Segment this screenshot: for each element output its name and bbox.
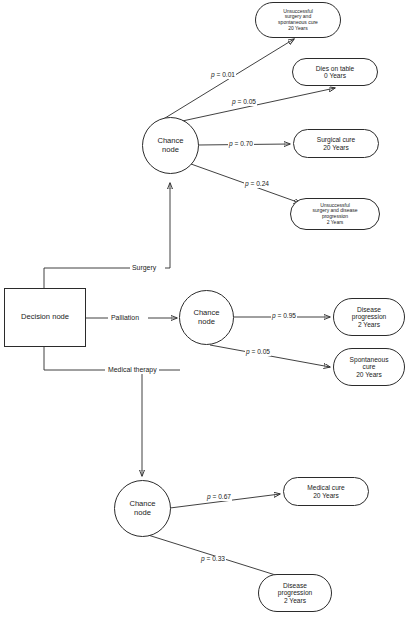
outcome-text: Surgical cure 20 Years [317, 136, 355, 151]
edge-surgery-unsuccessful-spontaneous [152, 39, 294, 126]
outcome-text: Unsuccessful surgery and disease progres… [312, 203, 357, 225]
chance-node-medical-label: Chance node [129, 500, 155, 517]
prob-label-palliation-spontaneous: p = 0.05 [245, 349, 271, 356]
outcome-unsuccessful-surgery-disease-progression[interactable]: Unsuccessful surgery and disease progres… [290, 198, 380, 230]
edge-medical-to-chance [142, 370, 180, 476]
outcome-medical-cure[interactable]: Medical cure 20 Years [283, 477, 369, 506]
chance-node-surgery-label: Chance node [157, 137, 183, 154]
decision-node-label: Decision node [21, 313, 69, 322]
chance-node-palliation-label: Chance node [193, 309, 219, 326]
outcome-text: Medical cure 20 Years [307, 484, 344, 499]
chance-node-surgery[interactable]: Chance node [142, 117, 199, 174]
edge-decision-to-medical [44, 347, 105, 370]
outcome-palliation-spontaneous-cure[interactable]: Spontaneous cure 20 Years [333, 348, 405, 386]
outcome-text: Spontaneous cure 20 Years [350, 356, 389, 378]
prob-label-medical-progression: p = 0.33 [200, 556, 226, 563]
outcome-text: Disease progression 2 Years [352, 306, 386, 328]
edge-surgery-to-chance [165, 183, 170, 268]
outcome-text: Dies on table 0 Years [316, 65, 355, 80]
branch-label-palliation: Palliation [109, 315, 141, 322]
outcome-text: Unsuccessful surgery and spontaneous cur… [278, 9, 318, 31]
prob-label-palliation-progression: p = 0.95 [271, 313, 297, 320]
prob-label-medical-cure: p = 0.67 [206, 494, 232, 501]
outcome-palliation-disease-progression[interactable]: Disease progression 2 Years [333, 298, 405, 336]
prob-label-surgical-cure: p = 0.70 [228, 141, 254, 148]
edge-decision-to-surgery [44, 268, 130, 288]
outcome-text: Disease progression 2 Years [278, 582, 312, 604]
prob-label-unsuccessful-progression: p = 0.24 [244, 181, 270, 188]
outcome-dies-on-table[interactable]: Dies on table 0 Years [292, 58, 378, 86]
decision-node[interactable]: Decision node [4, 288, 86, 347]
chance-node-medical[interactable]: Chance node [114, 480, 171, 537]
chance-node-palliation[interactable]: Chance node [179, 290, 234, 345]
prob-label-unsuccessful-spontaneous: p = 0.01 [210, 72, 236, 79]
outcome-unsuccessful-surgery-spontaneous-cure[interactable]: Unsuccessful surgery and spontaneous cur… [255, 2, 341, 38]
branch-label-surgery: Surgery [130, 265, 158, 272]
branch-label-medical-therapy: Medical therapy [106, 367, 159, 374]
prob-label-dies-on-table: p = 0.05 [231, 99, 257, 106]
outcome-surgical-cure[interactable]: Surgical cure 20 Years [293, 129, 379, 158]
decision-tree-diagram: Decision node Chance node Chance node Ch… [0, 0, 410, 623]
outcome-medical-disease-progression[interactable]: Disease progression 2 Years [258, 574, 332, 612]
